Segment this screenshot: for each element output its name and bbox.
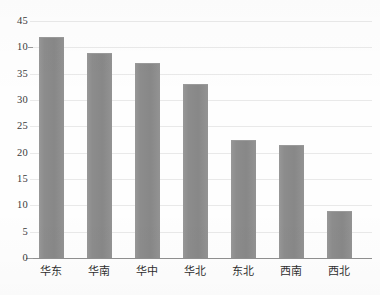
x-tick-label-huadong: 华东 [27, 266, 75, 277]
gridline [30, 74, 372, 75]
bar-huabei [183, 84, 208, 258]
bar-dongbei [231, 140, 256, 259]
y-tick-label-10: 10 [2, 200, 28, 211]
x-tick-label-dongbei: 东北 [219, 266, 267, 277]
x-tick-label-xinan: 西南 [267, 266, 315, 277]
y-tick-mark-40 [28, 47, 33, 48]
bar-xinan [279, 145, 304, 258]
y-tick-label-30: 30 [2, 95, 28, 106]
x-tick-label-xibei: 西北 [315, 266, 363, 277]
y-tick-label-25: 25 [2, 121, 28, 132]
y-tick-label-15: 15 [2, 174, 28, 185]
y-tick-label-0: 0 [2, 253, 28, 264]
x-tick-label-huazhong: 华中 [123, 266, 171, 277]
bar-huadong [39, 37, 64, 258]
plot-area [30, 21, 372, 258]
gridline [30, 21, 372, 22]
y-tick-label-20: 20 [2, 148, 28, 159]
y-tick-mark-0 [28, 258, 33, 259]
bar-huanan [87, 53, 112, 258]
bar-huazhong [135, 63, 160, 258]
y-tick-label-40: 10 [2, 42, 28, 53]
bar-chart: 45 10 35 30 25 20 15 10 5 0 华东 华南 华中 华北 … [0, 0, 380, 295]
y-tick-label-5: 5 [2, 227, 28, 238]
x-axis-line [26, 258, 372, 259]
x-tick-label-huanan: 华南 [75, 266, 123, 277]
y-tick-label-45: 45 [2, 16, 28, 27]
y-tick-label-35: 35 [2, 69, 28, 80]
gridline [30, 47, 372, 48]
bar-xibei [327, 211, 352, 258]
x-tick-label-huabei: 华北 [171, 266, 219, 277]
